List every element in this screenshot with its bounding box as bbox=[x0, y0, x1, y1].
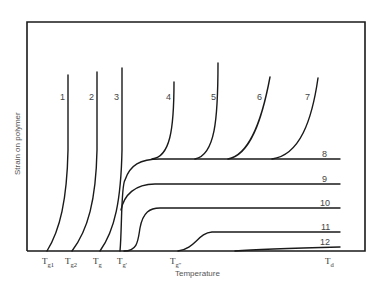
y-axis-label: Strain on polymer bbox=[13, 112, 22, 175]
curve-label-3: 3 bbox=[114, 92, 119, 102]
tick-td: Td bbox=[325, 256, 335, 268]
curve-label-4: 4 bbox=[166, 92, 171, 102]
tick-tg: Tg bbox=[93, 256, 103, 268]
tick-tg1: Tg1 bbox=[42, 256, 54, 268]
curve-label-1: 1 bbox=[60, 92, 65, 102]
tick-tg2: Tg2 bbox=[65, 256, 77, 268]
curve-label-12: 12 bbox=[320, 237, 330, 247]
curve-9 bbox=[121, 184, 340, 210]
curve-label-11: 11 bbox=[321, 222, 330, 232]
curve-label-7: 7 bbox=[305, 92, 310, 102]
curve-label-2: 2 bbox=[89, 92, 94, 102]
strain-temperature-diagram: 1 2 3 4 5 6 7 8 9 10 11 12 Strain on pol… bbox=[0, 0, 382, 290]
curve-10 bbox=[124, 208, 340, 251]
curve-label-10: 10 bbox=[320, 198, 330, 208]
x-axis-label: Temperature bbox=[175, 269, 220, 278]
curve-label-8: 8 bbox=[322, 149, 327, 159]
curve-8 bbox=[120, 159, 340, 251]
curve-label-9: 9 bbox=[322, 174, 327, 184]
tick-tg-prime: Tg' bbox=[117, 256, 127, 268]
curve-5 bbox=[195, 63, 218, 159]
curve-label-5: 5 bbox=[211, 92, 216, 102]
curve-label-6: 6 bbox=[257, 92, 262, 102]
tick-tg-double-prime: Tg'' bbox=[170, 256, 181, 268]
curve-7 bbox=[272, 78, 318, 159]
plot-frame bbox=[27, 22, 365, 251]
curve-6 bbox=[228, 77, 270, 159]
